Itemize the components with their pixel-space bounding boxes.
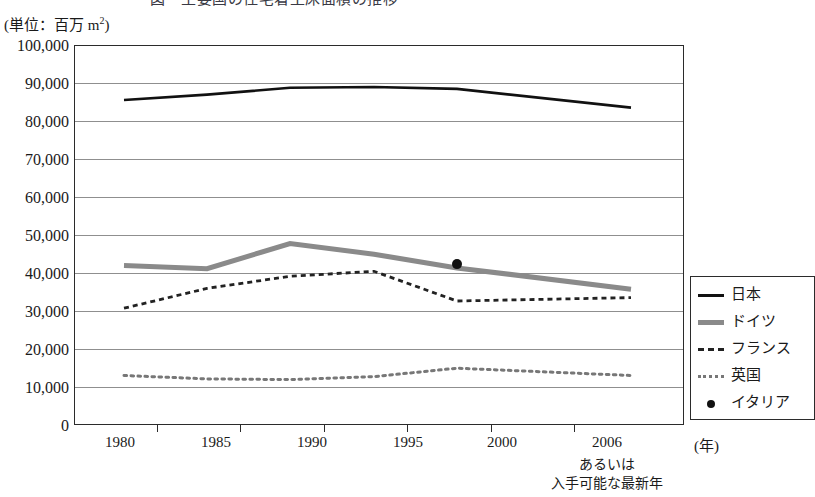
italy-data-point xyxy=(452,259,462,269)
legend-label-uk: 英国 xyxy=(731,368,761,383)
legend-item-japan[interactable]: 日本 xyxy=(697,281,814,308)
series-layer xyxy=(75,46,685,426)
x-tick-label-1990: 1990 xyxy=(282,434,342,450)
y-axis-unit-text: (単位：百万 m xyxy=(4,17,99,33)
series-line-japan xyxy=(124,87,631,108)
legend-label-france: フランス xyxy=(731,341,791,356)
y-tick-label-100000: 100,000 xyxy=(17,38,69,54)
y-tick-label-0: 0 xyxy=(61,418,69,434)
legend-label-germany: ドイツ xyxy=(731,314,776,329)
x-tick-mark-2000 xyxy=(407,425,408,432)
legend-label-japan: 日本 xyxy=(731,287,761,302)
solid-line-key-icon xyxy=(697,288,727,302)
y-tick-label-90000: 90,000 xyxy=(25,76,69,92)
y-axis-unit-label: (単位：百万 m2) xyxy=(4,12,109,34)
legend: 日本 ドイツ フランス 英国 イタリア xyxy=(690,276,815,420)
x-tick-mark-1990 xyxy=(240,425,241,432)
x-tick-label-1980: 1980 xyxy=(90,434,150,450)
x-axis-note-line2: 入手可能な最新年 xyxy=(507,474,707,493)
dot-marker-key-icon xyxy=(697,396,727,410)
x-tick-label-1995: 1995 xyxy=(378,434,438,450)
dashed-line-key-icon xyxy=(697,342,727,356)
plot-area xyxy=(74,45,684,425)
y-tick-label-10000: 10,000 xyxy=(25,380,69,396)
y-axis-unit-close: ) xyxy=(104,17,109,33)
chart-title-cutoff: 図 主要国の住宅着工床面積の推移 xyxy=(0,0,807,8)
thick-gray-line-key-icon xyxy=(697,315,727,329)
chart-title-text: 図 主要国の住宅着工床面積の推移 xyxy=(150,0,398,8)
legend-label-italy: イタリア xyxy=(731,395,790,410)
legend-item-italy[interactable]: イタリア xyxy=(697,389,814,416)
y-tick-label-20000: 20,000 xyxy=(25,342,69,358)
y-tick-label-30000: 30,000 xyxy=(25,304,69,320)
x-tick-label-2000: 2000 xyxy=(472,434,532,450)
x-tick-mark-2003 xyxy=(491,425,492,432)
series-line-germany xyxy=(124,244,631,290)
series-line-uk xyxy=(124,368,631,379)
legend-item-france[interactable]: フランス xyxy=(697,335,814,362)
x-tick-mark-1995 xyxy=(324,425,325,432)
legend-item-germany[interactable]: ドイツ xyxy=(697,308,814,335)
x-tick-label-2006: 2006 xyxy=(577,434,637,450)
x-tick-label-1985: 1985 xyxy=(186,434,246,450)
series-line-france xyxy=(124,271,631,308)
series-marker-italy xyxy=(452,259,462,269)
x-tick-mark-1985 xyxy=(157,425,158,432)
dotted-line-key-icon xyxy=(697,369,727,383)
y-tick-label-60000: 60,000 xyxy=(25,190,69,206)
x-tick-mark-2006 xyxy=(574,425,575,432)
x-axis-unit-label: (年) xyxy=(694,434,719,455)
y-tick-label-40000: 40,000 xyxy=(25,266,69,282)
y-tick-label-70000: 70,000 xyxy=(25,152,69,168)
y-tick-label-50000: 50,000 xyxy=(25,228,69,244)
y-tick-label-80000: 80,000 xyxy=(25,114,69,130)
legend-item-uk[interactable]: 英国 xyxy=(697,362,814,389)
x-axis-note-line1: あるいは xyxy=(507,455,707,474)
